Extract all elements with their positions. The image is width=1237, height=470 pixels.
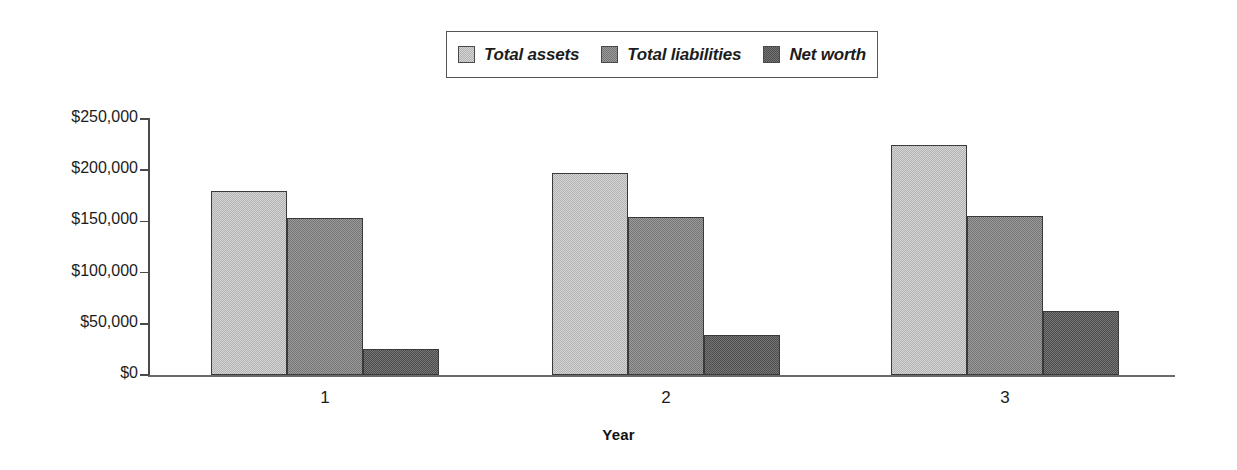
bar-groups <box>0 0 1237 375</box>
plot-area: $0$50,000$100,000$150,000$200,000$250,00… <box>0 0 1237 470</box>
bar <box>552 173 628 375</box>
bar-chart: Total assets Total liabilities Net worth… <box>0 0 1237 470</box>
bar <box>1043 311 1119 376</box>
x-axis-tick-label: 1 <box>265 388 385 408</box>
bar <box>211 191 287 375</box>
x-axis-tick-label: 3 <box>945 388 1065 408</box>
bar <box>967 216 1043 375</box>
bar <box>704 335 780 375</box>
bar <box>287 218 363 375</box>
bar <box>628 217 704 375</box>
x-axis-line <box>148 375 1175 377</box>
bar <box>891 145 967 375</box>
bar-group <box>552 0 780 375</box>
bar-group <box>891 0 1119 375</box>
x-axis-title: Year <box>0 426 1237 443</box>
bar-group <box>211 0 439 375</box>
bar <box>363 349 439 375</box>
x-axis-tick-label: 2 <box>606 388 726 408</box>
